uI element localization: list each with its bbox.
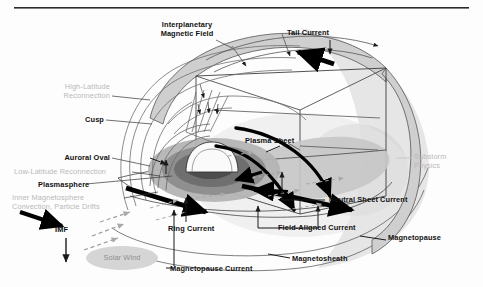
- label-field-aligned-current: Field-Aligned Current: [278, 223, 356, 232]
- top-rule: [14, 7, 469, 9]
- label-inner-magnetosphere: Inner Magnetosphere Convection, Particle…: [12, 193, 130, 211]
- label-plasma-sheet: Plasma Sheet: [245, 136, 294, 145]
- label-plasmasphere: Plasmasphere: [38, 180, 89, 189]
- label-solar-wind: Solar Wind: [92, 253, 152, 262]
- label-magnetopause: Magnetopause: [388, 233, 441, 242]
- ring-current-arrow: [254, 190, 288, 192]
- label-ring-current: Ring Current: [168, 224, 214, 233]
- diagram-canvas: [0, 0, 483, 287]
- label-magnetopause-current: Magnetopause Current: [170, 264, 253, 273]
- magnetopause-current-arrow-secondary: [20, 212, 62, 226]
- label-magnetosheath: Magnetosheath: [292, 254, 348, 263]
- inner-magnetosphere-shells: [148, 138, 280, 202]
- magnetosphere-diagram: Interplanetary Magnetic Field Tail Curre…: [0, 0, 483, 287]
- label-interplanetary-magnetic-field: Interplanetary Magnetic Field: [151, 20, 223, 38]
- label-neutral-sheet-current: Neutral Sheet Current: [329, 195, 408, 204]
- tail-current-arrow: [298, 52, 334, 64]
- label-substorm-physics: Substorm Physics: [414, 152, 474, 170]
- solar-wind-arrows: [84, 212, 130, 250]
- label-high-latitude-reconnection: High-Latitude Reconnection: [32, 82, 110, 100]
- label-auroral-oval: Auroral Oval: [40, 153, 110, 162]
- label-tail-current: Tail Current: [287, 28, 329, 37]
- label-low-latitude-reconnection: Low-Latitude Reconnection: [14, 167, 106, 176]
- label-cusp: Cusp: [60, 115, 104, 124]
- label-imf: IMF: [55, 225, 68, 234]
